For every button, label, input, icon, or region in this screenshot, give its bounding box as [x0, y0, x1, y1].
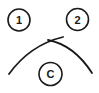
- node-1-label: 1: [16, 14, 22, 26]
- arc-right-curve: [48, 40, 92, 73]
- node-1: 1: [8, 9, 30, 31]
- node-c-label: C: [47, 68, 55, 80]
- node-2-label: 2: [74, 14, 80, 26]
- diagram-canvas: 1 2 C: [0, 0, 99, 93]
- node-2: 2: [67, 9, 89, 31]
- node-c: C: [39, 63, 62, 86]
